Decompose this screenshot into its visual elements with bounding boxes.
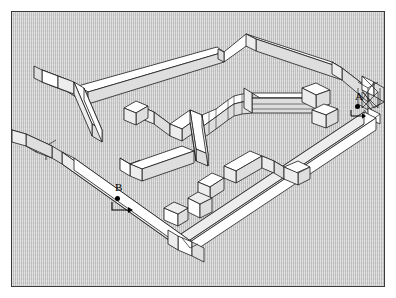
marker-a-label: A <box>355 91 363 102</box>
marker-a: A <box>349 91 373 117</box>
marker-b: B <box>110 182 140 212</box>
wall-segment-west-lower-stub <box>12 130 52 158</box>
wall-segment-north <box>218 34 342 80</box>
marker-b-label: B <box>115 182 122 193</box>
inner-wall-spur-left <box>124 101 148 125</box>
drawing-plate: .w { fill:#ffffff; stroke:#1a1a1a; strok… <box>11 11 385 287</box>
axonometric-wall-drawing: .w { fill:#ffffff; stroke:#1a1a1a; strok… <box>12 12 385 287</box>
inner-block-south <box>164 202 188 226</box>
marker-a-direction-arrow <box>349 109 369 119</box>
inner-wall-spur-west <box>120 146 194 181</box>
wall-segment-nw-corner <box>68 47 224 104</box>
marker-b-direction-arrow <box>110 201 136 213</box>
figure-container: .w { fill:#ffffff; stroke:#1a1a1a; strok… <box>0 0 396 298</box>
wall-bastion-nw <box>34 66 74 94</box>
